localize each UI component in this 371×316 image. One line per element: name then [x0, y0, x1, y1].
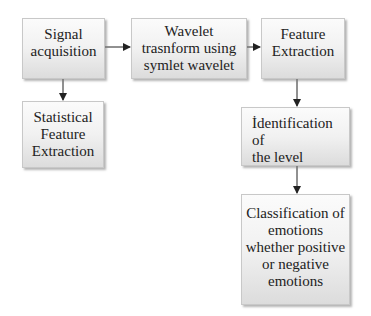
- node-label: Classification of emotions whether posit…: [246, 205, 346, 290]
- node-label: Feature Extraction: [272, 26, 334, 60]
- node-signal-acquisition: Signal acquisition: [22, 18, 105, 79]
- node-identification-of-level: İdentification of the level: [241, 107, 350, 166]
- node-label: Wavelet trasnform using symlet wavelet: [142, 23, 237, 74]
- node-label: İdentification of the level: [252, 115, 346, 166]
- node-classification-of-emotions: Classification of emotions whether posit…: [241, 194, 350, 305]
- node-label: Statistical Feature Extraction: [32, 109, 94, 160]
- node-feature-extraction: Feature Extraction: [261, 18, 345, 79]
- node-statistical-feature-extraction: Statistical Feature Extraction: [22, 101, 104, 168]
- node-wavelet-transform: Wavelet trasnform using symlet wavelet: [131, 18, 247, 79]
- node-label: Signal acquisition: [31, 26, 97, 60]
